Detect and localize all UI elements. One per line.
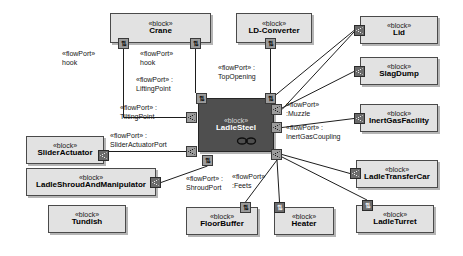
updown-arrows-icon: ⇅ [199,95,205,102]
block-ladleshroud[interactable]: «block»LadleShroudAndManipulator [26,168,156,196]
block-name: LadleShroudAndManipulator [36,181,146,190]
flowport-icon [188,148,195,155]
updown-arrows-icon: ⇅ [121,40,127,47]
connector[interactable] [282,32,354,110]
port-ladle-tilting[interactable] [186,112,197,123]
block-name: Tundish [72,218,103,227]
port-ladle-feets[interactable] [271,149,282,160]
port-label-stereotype: «flowPort» : [286,124,323,131]
port-label-name: LiftingPoint [136,85,173,94]
block-name: Heater [292,220,317,229]
port-label-hook-right: «flowPort»hook [140,50,173,68]
updown-arrows-icon: ⇅ [365,202,371,209]
port-ladle-liftingpoint[interactable]: ⇅ [196,93,207,104]
port-crane-left[interactable]: ⇅ [118,38,129,49]
port-label-muzzle: «flowPort»:Muzzle [286,101,319,119]
flowport-icon [273,106,280,113]
port-label-name: :Muzzle [286,110,319,119]
block-name: SliderActuator [37,149,92,158]
port-lid-left[interactable] [354,25,365,36]
port-label-feets: «flowPort»:Feets [232,173,265,191]
flowport-icon [352,170,359,177]
flowport-icon [273,124,280,131]
port-crane-right[interactable]: ⇅ [190,38,201,49]
flowport-icon [188,114,195,121]
port-inertgas-left[interactable] [354,113,365,124]
port-heater-top[interactable]: ⇅ [274,202,285,213]
chain-link-icon [236,136,258,146]
port-label-stereotype: «flowPort» : [136,76,173,83]
port-ladle-slideract[interactable] [186,146,197,157]
connector[interactable] [277,160,280,202]
connector[interactable] [282,155,350,174]
block-lid[interactable]: «block»Lid [360,16,438,44]
block-name: FloorBuffer [200,220,244,229]
port-label-name: TiltingPoint [120,113,157,122]
updown-arrows-icon: ⇅ [268,40,274,47]
port-label-name: hook [62,59,95,68]
port-label-topopening: «flowPort» :TopOpening [218,64,256,82]
port-slideract-right[interactable] [98,150,109,161]
port-label-liftingpoint: «flowPort» :LiftingPoint [136,76,173,94]
port-label-name: InertGasCoupling [286,133,340,142]
port-ladle-shroudport[interactable]: ⇅ [202,155,213,166]
flowport-icon [356,27,363,34]
block-name: InertGasFacility [369,117,429,126]
port-transfercar-left[interactable] [350,168,361,179]
port-label-inertgascoupling: «flowPort» :InertGasCoupling [286,124,340,142]
flowport-icon [100,152,107,159]
port-label-stereotype: «flowPort» : [218,64,255,71]
port-label-name: TopOpening [218,73,256,82]
updown-arrows-icon: ⇅ [205,157,211,164]
block-inertgas[interactable]: «block»InertGasFacility [360,104,438,132]
port-ladle-topopening[interactable]: ⇅ [265,93,276,104]
block-name: LadleSteel [216,124,256,133]
port-label-stereotype: «flowPort» [140,50,173,57]
updown-arrows-icon: ⇅ [243,204,249,211]
port-label-name: :Feets [232,182,265,191]
port-floorbuffer-top[interactable]: ⇅ [240,202,251,213]
block-slagdump[interactable]: «block»SlagDump [360,57,438,85]
port-label-tiltingpoint: «flowPort» :TiltingPoint [120,104,157,122]
flowport-icon [356,115,363,122]
port-shroud-right[interactable] [150,177,161,188]
port-label-stereotype: «flowPort» : [186,175,223,182]
block-name: LadleTurret [373,218,416,227]
block-name: SlagDump [379,70,419,79]
port-label-hook-left: «flowPort»hook [62,50,95,68]
port-label-shroudport: «flowPort» :ShroudPort [186,175,223,193]
port-label-stereotype: «flowPort» : [120,104,157,111]
port-label-name: hook [140,59,173,68]
port-label-stereotype: «flowPort» : [110,132,147,139]
port-label-stereotype: «flowPort» [62,50,95,57]
sysml-block-diagram: «block»Crane«block»LD-Converter«block»Li… [0,0,463,256]
updown-arrows-icon: ⇅ [193,40,199,47]
port-label-stereotype: «flowPort» [232,173,265,180]
port-slagdump-left[interactable] [354,66,365,77]
port-ladle-muzzle[interactable] [271,104,282,115]
flowport-icon [356,68,363,75]
block-name: LD-Converter [248,27,299,36]
block-name: Lid [393,29,405,38]
updown-arrows-icon: ⇅ [268,95,274,102]
port-ladle-inertcoup[interactable] [271,122,282,133]
port-label-slideractuatorport: «flowPort» :SliderActuatorPort [110,132,167,150]
block-transfercar[interactable]: «block»LadleTransferCar [356,160,438,188]
port-ldconv-bottom[interactable]: ⇅ [265,38,276,49]
port-ladleturret-top[interactable]: ⇅ [362,200,373,211]
block-tundish[interactable]: «block»Tundish [48,205,126,233]
block-name: Crane [149,27,172,36]
port-label-stereotype: «flowPort» [286,101,319,108]
flowport-icon [273,151,280,158]
flowport-icon [152,179,159,186]
block-slideract[interactable]: «block»SliderActuator [26,136,104,164]
updown-arrows-icon: ⇅ [277,204,283,211]
block-name: LadleTransferCar [364,173,430,182]
port-label-name: SliderActuatorPort [110,141,167,150]
port-label-name: ShroudPort [186,184,223,193]
